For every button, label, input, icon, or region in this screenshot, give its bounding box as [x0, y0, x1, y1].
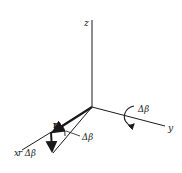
displacement-label: r Δβ: [18, 148, 36, 158]
y-axis: [92, 107, 165, 126]
z-axis-label: z: [83, 18, 89, 28]
rotated-vector: [53, 107, 92, 153]
y-axis-label: y: [167, 123, 174, 133]
angle-label: Δβ: [81, 132, 93, 142]
r-vector-label: r: [53, 120, 58, 130]
r-vector: [53, 107, 92, 132]
rotation-diagram: z y x r r Δβ Δβ Δβ: [0, 0, 182, 173]
rotation-label: Δβ: [137, 104, 149, 114]
displacement-vector: [51, 132, 52, 151]
